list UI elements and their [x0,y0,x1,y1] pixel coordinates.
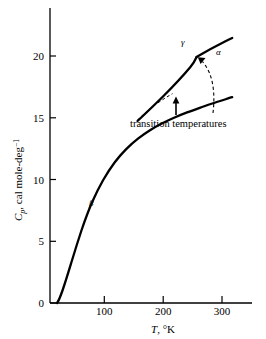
x-tick-label-100: 100 [96,305,113,317]
y-tick-label-5: 5 [39,235,45,247]
x-axis-title-units: , °K [157,323,175,335]
x-tick-label-300: 300 [214,305,231,317]
alpha-phase-label: α [216,47,221,57]
y-axis-title-units: , cal mole-deg [12,147,24,210]
gamma-phase-label: γ [181,37,185,47]
transition-temperatures-label: transition temperatures [130,118,227,129]
transition-arrow-gamma [173,97,180,116]
y-axis-title-exponent: −1 [12,139,21,147]
y-axis-title: Cp, cal mole-deg−1 [12,139,27,221]
y-tick-label-0: 0 [39,297,45,309]
y-tick-label-10: 10 [33,174,45,186]
x-axis-ticks [104,296,222,303]
chart-figure: 0 5 10 15 20 100 200 300 T, °K Cp, cal m… [0,0,266,339]
y-axis-ticks [50,56,56,303]
y-tick-label-15: 15 [33,112,45,124]
x-axis-title: T, °K [151,323,175,335]
y-tick-label-20: 20 [33,50,45,62]
chart-svg: 0 5 10 15 20 100 200 300 T, °K Cp, cal m… [0,0,266,339]
beta-phase-label: β [88,198,94,208]
alpha-phase-segment [197,38,233,57]
x-tick-label-200: 200 [155,305,172,317]
